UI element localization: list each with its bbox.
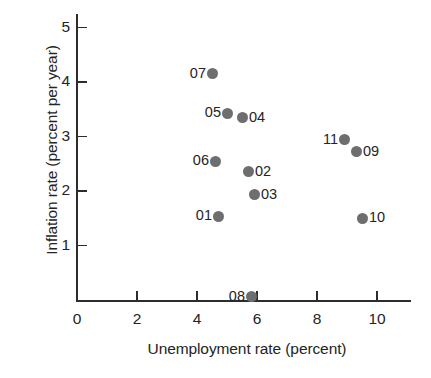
data-point-07	[207, 68, 218, 79]
data-point-label-03: 03	[261, 186, 288, 202]
x-tick-label-2: 2	[122, 310, 152, 328]
data-point-label-02: 02	[255, 163, 282, 179]
data-point-label-05: 05	[194, 104, 221, 120]
y-tick-5	[78, 27, 87, 29]
y-tick-1	[78, 245, 87, 247]
y-tick-label-2: 2	[48, 181, 70, 199]
x-tick-4	[196, 291, 198, 300]
x-tick-label-0: 0	[62, 310, 92, 328]
x-axis-title: Unemployment rate (percent)	[77, 340, 417, 358]
x-tick-0	[76, 291, 78, 300]
x-tick-label-4: 4	[182, 310, 212, 328]
data-point-01	[213, 211, 224, 222]
y-tick-label-4: 4	[48, 72, 70, 90]
x-tick-2	[136, 291, 138, 300]
data-point-10	[357, 213, 368, 224]
data-point-11	[339, 134, 350, 145]
y-tick-label-1: 1	[48, 236, 70, 254]
data-point-label-01: 01	[185, 207, 212, 223]
data-point-03	[249, 189, 260, 200]
y-tick-label-5: 5	[48, 18, 70, 36]
data-point-label-10: 10	[369, 209, 396, 225]
data-point-label-06: 06	[182, 152, 209, 168]
x-tick-10	[376, 291, 378, 300]
y-tick-label-3: 3	[48, 127, 70, 145]
y-tick-4	[78, 81, 87, 83]
x-tick-label-6: 6	[242, 310, 272, 328]
x-tick-label-10: 10	[362, 310, 392, 328]
data-point-label-04: 04	[249, 109, 276, 125]
data-point-label-09: 09	[363, 143, 390, 159]
y-tick-3	[78, 136, 87, 138]
scatter-plot-figure: Inflation rate (percent per year) Unempl…	[0, 0, 431, 378]
data-point-label-07: 07	[179, 65, 206, 81]
y-axis-line	[76, 14, 78, 302]
data-point-08	[246, 291, 257, 302]
data-point-06	[210, 156, 221, 167]
data-point-label-08: 08	[218, 288, 245, 304]
y-tick-2	[78, 190, 87, 192]
data-point-02	[243, 166, 254, 177]
data-point-04	[237, 112, 248, 123]
data-point-05	[222, 108, 233, 119]
data-point-label-11: 11	[311, 131, 338, 147]
x-tick-label-8: 8	[302, 310, 332, 328]
x-tick-8	[316, 291, 318, 300]
data-point-09	[351, 146, 362, 157]
